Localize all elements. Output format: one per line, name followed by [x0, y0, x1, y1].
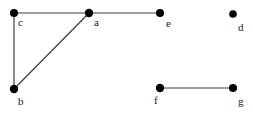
edge-layer [14, 13, 233, 89]
graph-vertex-g [229, 84, 237, 92]
vertex-label-b: b [18, 96, 24, 107]
vertex-layer [10, 9, 237, 93]
vertex-label-e: e [166, 18, 171, 29]
graph-vertex-c [10, 9, 18, 17]
graph-vertex-a [85, 9, 93, 17]
graph-vertex-f [156, 84, 164, 92]
vertex-label-a: a [94, 17, 99, 28]
graph-figure: caedbfg [0, 0, 253, 115]
vertex-label-d: d [238, 22, 244, 33]
graph-vertex-b [10, 85, 18, 93]
graph-canvas [0, 0, 253, 115]
vertex-label-f: f [154, 95, 158, 106]
graph-edge [14, 13, 89, 89]
graph-vertex-d [229, 10, 237, 18]
graph-vertex-e [156, 9, 164, 17]
vertex-label-c: c [18, 17, 23, 28]
vertex-label-g: g [238, 96, 244, 107]
